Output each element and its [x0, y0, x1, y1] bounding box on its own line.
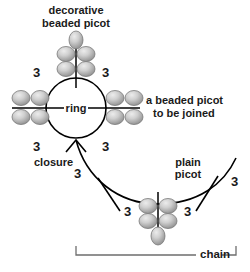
bead [69, 31, 83, 49]
bead [12, 91, 30, 106]
decorative-beaded-picot-label-line1: decorative [48, 4, 103, 16]
stitch-count-ring-top-right: 3 [102, 66, 109, 81]
bead [139, 214, 157, 229]
bead [31, 91, 49, 106]
stitch-count-ring-bottom-right: 3 [102, 140, 109, 155]
bead [57, 62, 75, 77]
plain-picot-label-line2: picot [175, 168, 201, 180]
chain-label: chain [200, 248, 230, 261]
bead [77, 62, 95, 77]
ring-label: ring [66, 102, 87, 114]
beaded-picot-join-label-line1: a beaded picot [146, 94, 223, 106]
plain-picot-tick-right [196, 176, 218, 211]
bead [159, 199, 177, 214]
bead [125, 110, 143, 125]
bead [151, 227, 165, 245]
stitch-count-chain-picot-right: 3 [184, 205, 191, 220]
stitch-count-chain-picot-left: 3 [124, 205, 131, 220]
diagram-vector-layer [0, 0, 250, 272]
bead [57, 47, 75, 62]
closure-label: closure [34, 156, 73, 168]
bead [12, 110, 30, 125]
stitch-count-chain-upper: 3 [74, 167, 81, 182]
bead [139, 199, 157, 214]
decorative-beaded-picot-label-line2: beaded picot [42, 17, 110, 29]
bead [77, 47, 95, 62]
bead [31, 110, 49, 125]
stitch-count-ring-bottom-left: 3 [33, 140, 40, 155]
chain-arc [76, 140, 236, 204]
bead [125, 91, 143, 106]
beaded-picot-join-label-line2: to be joined [153, 107, 215, 119]
diagram-canvas: decorative beaded picot 3 3 ring a beade… [0, 0, 250, 272]
bead [159, 214, 177, 229]
bead [106, 110, 124, 125]
bead [106, 91, 124, 106]
plain-picot-label-line1: plain [175, 156, 201, 168]
bracket-left-arm [76, 246, 196, 255]
stitch-count-ring-top-left: 3 [33, 66, 40, 81]
stitch-count-chain-far-right: 3 [231, 175, 238, 190]
